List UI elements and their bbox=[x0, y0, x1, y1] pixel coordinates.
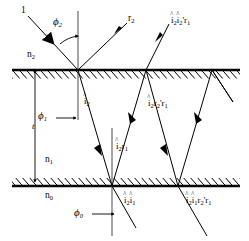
label-medium-n2: n2 bbox=[27, 50, 35, 60]
angle-arcs bbox=[60, 36, 78, 44]
upper-interface-hatching bbox=[12, 71, 240, 79]
sub-2d: 2 bbox=[151, 102, 154, 109]
sub-1e: 1 bbox=[194, 199, 197, 206]
ray-exit-top-1-arrow bbox=[155, 32, 163, 42]
lower-interface bbox=[12, 178, 240, 186]
n1-subscript: 1 bbox=[50, 158, 53, 165]
label-medium-n0: n0 bbox=[45, 191, 53, 201]
label-ray-i2: i2 bbox=[84, 97, 90, 106]
phi0-subscript: 0 bbox=[80, 212, 83, 219]
prime-b: ' bbox=[183, 15, 184, 25]
sub-1b: 1 bbox=[164, 102, 167, 109]
label-ray-r2: r2 bbox=[128, 14, 134, 24]
label-phi1: ϕ1 bbox=[38, 110, 47, 121]
phi2-subscript: 2 bbox=[59, 21, 62, 28]
n0-subscript: 0 bbox=[50, 194, 53, 201]
sub-1d: 1 bbox=[132, 199, 135, 206]
ray-refracted-i2-arrow bbox=[94, 144, 102, 156]
sub-1f: 1 bbox=[208, 199, 211, 206]
r2-subscript: 2 bbox=[131, 17, 134, 24]
phi2-symbol: ϕ bbox=[53, 15, 59, 27]
label-phi0: ϕ0 bbox=[74, 207, 83, 218]
ray-exit-top-1 bbox=[146, 24, 169, 70]
prime-d: ' bbox=[204, 195, 205, 205]
label-ray-i2i1r2pr1: i2i1r2'r1 bbox=[186, 196, 211, 205]
label-incident-ray: 1 bbox=[21, 6, 26, 16]
figure-root: 1 ϕ2 n2 r2 i2i2'r1 t ϕ1 i2 i2r2'r1 i2r1 … bbox=[0, 0, 249, 241]
ray-internal-down-2 bbox=[146, 70, 178, 186]
phi1-subscript: 1 bbox=[44, 115, 47, 122]
phi1-symbol: ϕ bbox=[38, 109, 44, 121]
label-ray-i2r1: i2r1 bbox=[116, 142, 128, 151]
sub-2c: 2 bbox=[87, 100, 90, 107]
ray-reflected-r2-arrow bbox=[114, 26, 122, 34]
n2-subscript: 2 bbox=[32, 53, 35, 60]
ray-internal-up-2 bbox=[178, 70, 212, 186]
label-ray-i2i1: i2i1 bbox=[124, 196, 136, 205]
sub-1c: 1 bbox=[125, 145, 128, 152]
label-ray-i2r2pr1: i2r2'r1 bbox=[148, 99, 168, 108]
ray-internal-up-1-arrow bbox=[128, 112, 136, 124]
sub-2f: 2 bbox=[119, 145, 122, 152]
phi2-angle-arc bbox=[60, 36, 78, 44]
ray-internal-up-1 bbox=[112, 70, 146, 186]
ray-reflected-r2 bbox=[78, 23, 127, 70]
ray-refracted-i2 bbox=[78, 70, 112, 186]
phi0-symbol: ϕ bbox=[74, 206, 80, 218]
label-thickness: t bbox=[32, 122, 34, 131]
upper-interface bbox=[12, 70, 240, 79]
sub-1a: 1 bbox=[187, 19, 190, 26]
label-ray-i2i2pr1: i2i2'r1 bbox=[171, 16, 190, 25]
label-medium-n1: n1 bbox=[45, 155, 53, 165]
normal-lines bbox=[78, 11, 112, 236]
ray-incident-arrow bbox=[46, 33, 54, 42]
ray-internal-up-2-arrow bbox=[194, 112, 202, 124]
label-phi2: ϕ2 bbox=[53, 16, 62, 27]
